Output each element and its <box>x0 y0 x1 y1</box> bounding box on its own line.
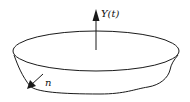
bowl-surface-diagram: Y(t) n <box>0 0 190 102</box>
surface-lower-boundary <box>14 55 178 94</box>
velocity-arrow-head-icon <box>93 9 100 21</box>
velocity-label: Y(t) <box>101 8 120 19</box>
normal-label: n <box>45 77 51 88</box>
